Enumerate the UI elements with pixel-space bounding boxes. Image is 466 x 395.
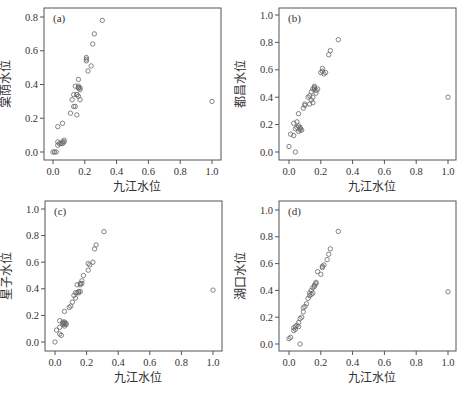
data-point (296, 111, 300, 115)
x-axis-label: 九江水位 (348, 370, 396, 385)
data-point (92, 32, 96, 36)
data-point (70, 97, 74, 101)
x-axis-label: 九江水位 (114, 370, 162, 385)
plot-frame (279, 8, 456, 160)
plot-frame (44, 8, 221, 160)
data-point (210, 99, 214, 103)
data-point (56, 124, 60, 128)
x-axis-label: 九江水位 (348, 179, 396, 194)
x-tick-label: 0.4 (346, 166, 360, 177)
data-point (102, 229, 106, 233)
data-point (86, 268, 90, 272)
y-axis-label: 都昌水位 (233, 60, 248, 108)
x-tick-label: 1.0 (205, 166, 218, 177)
x-tick-label: 0.4 (346, 357, 360, 368)
data-point (91, 260, 95, 264)
y-tick-label: 0.0 (260, 339, 273, 350)
data-point (76, 77, 80, 81)
x-tick-label: 0.0 (48, 357, 61, 368)
y-tick-label: 0.8 (260, 37, 273, 48)
data-point (298, 342, 302, 346)
x-tick-label: 0.6 (143, 357, 156, 368)
y-tick-label: 1.0 (260, 10, 273, 21)
data-point (68, 111, 72, 115)
y-tick-label: 0.8 (25, 12, 38, 23)
x-tick-label: 0.2 (80, 357, 93, 368)
x-tick-label: 0.8 (410, 166, 423, 177)
data-point (86, 69, 90, 73)
data-point (446, 95, 450, 99)
x-tick-label: 0.8 (174, 166, 187, 177)
panel-label: (c) (54, 205, 67, 218)
y-tick-label: 0.0 (26, 337, 39, 348)
data-point (320, 66, 324, 70)
x-axis-label: 九江水位 (113, 179, 161, 194)
data-point (60, 121, 64, 125)
x-tick-label: 0.4 (110, 166, 124, 177)
data-point (70, 300, 74, 304)
data-point (336, 229, 340, 233)
y-tick-label: 1.0 (26, 204, 39, 215)
figure: 0.00.20.40.60.81.00.00.20.40.60.8九江水位棠荫水… (0, 0, 466, 395)
y-tick-label: 0.4 (260, 92, 274, 103)
plot-frame (279, 201, 456, 351)
data-point (94, 243, 98, 247)
data-point (446, 290, 450, 294)
x-tick-label: 1.0 (441, 166, 454, 177)
y-tick-label: 0.6 (260, 258, 273, 269)
x-tick-label: 1.0 (206, 357, 219, 368)
data-point (62, 309, 66, 313)
y-tick-label: 0.4 (26, 283, 40, 294)
y-tick-label: 0.6 (25, 45, 38, 56)
y-tick-label: 0.2 (25, 113, 38, 124)
x-tick-label: 0.8 (175, 357, 188, 368)
data-point (325, 257, 329, 261)
data-point (336, 37, 340, 41)
panel-label: (b) (288, 12, 301, 25)
plot-frame (45, 201, 222, 351)
x-tick-label: 0.2 (78, 166, 91, 177)
panel-b: 0.00.20.40.60.81.00.00.20.40.60.81.0九江水位… (233, 8, 456, 194)
data-point (327, 252, 331, 256)
x-tick-label: 1.0 (441, 357, 454, 368)
y-tick-label: 0.0 (25, 147, 38, 158)
panel-d: 0.00.20.40.60.81.00.00.20.40.60.81.0九江水位… (233, 201, 456, 385)
panel-c: 0.00.20.40.60.81.00.00.20.40.60.81.0九江水位… (0, 201, 222, 385)
y-axis-label: 湖口水位 (233, 252, 248, 300)
data-point (319, 272, 323, 276)
panel-a: 0.00.20.40.60.81.00.00.20.40.60.8九江水位棠荫水… (0, 8, 221, 194)
x-tick-label: 0.2 (314, 166, 327, 177)
data-point (100, 18, 104, 22)
data-point (53, 340, 57, 344)
y-tick-label: 0.8 (260, 231, 273, 242)
y-tick-label: 0.6 (260, 64, 273, 75)
data-point (89, 64, 93, 68)
data-point (293, 150, 297, 154)
y-axis-label: 星子水位 (0, 252, 14, 300)
y-axis-label: 棠荫水位 (0, 60, 13, 108)
x-tick-label: 0.8 (410, 357, 423, 368)
data-point (81, 273, 85, 277)
data-point (287, 144, 291, 148)
x-tick-label: 0.0 (282, 357, 295, 368)
x-tick-label: 0.2 (314, 357, 327, 368)
x-tick-label: 0.4 (112, 357, 126, 368)
y-tick-label: 0.2 (260, 119, 273, 130)
x-tick-label: 0.0 (46, 166, 59, 177)
x-tick-label: 0.6 (378, 166, 391, 177)
data-point (211, 288, 215, 292)
panel-label: (d) (288, 205, 301, 218)
panel-label: (a) (53, 12, 66, 25)
data-point (328, 48, 332, 52)
x-tick-label: 0.6 (142, 166, 155, 177)
y-tick-label: 0.2 (260, 312, 273, 323)
y-tick-label: 0.2 (26, 310, 39, 321)
x-tick-label: 0.0 (282, 166, 295, 177)
y-tick-label: 1.0 (260, 205, 273, 216)
y-tick-label: 0.6 (26, 257, 39, 268)
data-point (75, 113, 79, 117)
x-tick-label: 0.6 (378, 357, 391, 368)
data-point (328, 247, 332, 251)
y-tick-label: 0.4 (25, 79, 39, 90)
y-tick-label: 0.4 (260, 285, 274, 296)
